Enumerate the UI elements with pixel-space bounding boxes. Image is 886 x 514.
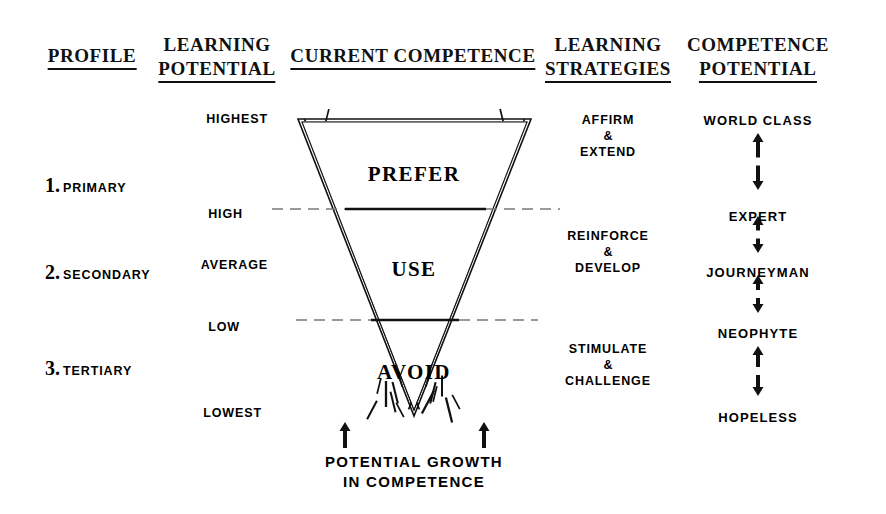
rank-arrow-up-3 xyxy=(753,346,764,367)
header-text: POTENTIAL xyxy=(699,57,816,83)
scale-level-label: AVERAGE xyxy=(201,258,268,272)
header-text: POTENTIAL xyxy=(158,57,275,83)
strategy-line-1: AFFIRM xyxy=(580,112,636,128)
rank-arrow-down-0 xyxy=(753,166,764,191)
header-text: COMPETENCE xyxy=(687,33,829,57)
competence-rank-expert: EXPERT xyxy=(729,209,788,224)
competence-zone-use: USE xyxy=(391,257,436,282)
potential-growth-caption: POTENTIAL GROWTHIN COMPETENCE xyxy=(325,452,503,492)
competence-rank-neophyte: NEOPHYTE xyxy=(718,326,798,341)
profile-label: SECONDARY xyxy=(63,268,151,282)
column-header-current-competence: CURRENT COMPETENCE xyxy=(290,44,535,70)
rank-arrow-down-1 xyxy=(753,239,764,254)
header-line: LEARNING xyxy=(158,33,275,57)
profile-number: 3. xyxy=(45,358,60,378)
profile-row: 1.PRIMARY xyxy=(45,175,126,195)
rank-arrow-up-0 xyxy=(753,133,764,158)
column-header-learning-potential: LEARNINGPOTENTIAL xyxy=(158,33,275,83)
column-header-profile: PROFILE xyxy=(48,44,137,70)
strategy-line-2: CHALLENGE xyxy=(565,373,651,389)
profile-row: 2.SECONDARY xyxy=(45,262,151,282)
profile-number: 1. xyxy=(45,175,60,195)
strategy-line-1: REINFORCE xyxy=(567,228,649,244)
header-text: STRATEGIES xyxy=(545,57,671,83)
diagram-canvas: PROFILE LEARNINGPOTENTIAL CURRENT COMPET… xyxy=(0,0,886,514)
header-line: LEARNING xyxy=(545,33,671,57)
header-text: CURRENT COMPETENCE xyxy=(290,44,535,70)
caption-line-2: IN COMPETENCE xyxy=(325,472,503,492)
strategy-line-1: STIMULATE xyxy=(565,341,651,357)
competence-rank-hopeless: HOPELESS xyxy=(718,410,798,425)
strategy-line-2: DEVELOP xyxy=(567,260,649,276)
growth-arrow-1 xyxy=(479,422,490,448)
growth-arrow-0 xyxy=(340,422,351,448)
header-text: PROFILE xyxy=(48,44,137,70)
profile-label: PRIMARY xyxy=(63,181,126,195)
strategy-ampersand: & xyxy=(565,357,651,373)
competence-zone-prefer: PREFER xyxy=(368,162,460,187)
column-header-learning-strategies: LEARNINGSTRATEGIES xyxy=(545,33,671,83)
scale-level-label: LOWEST xyxy=(203,406,262,420)
strategy-ampersand: & xyxy=(567,244,649,260)
rank-arrow-down-2 xyxy=(753,298,764,313)
column-header-competence-potential: COMPETENCEPOTENTIAL xyxy=(687,33,829,83)
scale-level-label: HIGH xyxy=(208,207,243,221)
strategy-ampersand: & xyxy=(580,128,636,144)
strategy-stimulate-challenge: STIMULATE&CHALLENGE xyxy=(565,341,651,389)
header-line: POTENTIAL xyxy=(687,57,829,83)
scale-level-label: LOW xyxy=(208,320,240,334)
profile-number: 2. xyxy=(45,262,60,282)
strategy-affirm-extend: AFFIRM&EXTEND xyxy=(580,112,636,160)
header-line: CURRENT COMPETENCE xyxy=(290,44,535,70)
rank-arrow-down-3 xyxy=(753,375,764,396)
header-line: PROFILE xyxy=(48,44,137,70)
header-line: COMPETENCE xyxy=(687,33,829,57)
caption-line-1: POTENTIAL GROWTH xyxy=(325,452,503,472)
strategy-reinforce-develop: REINFORCE&DEVELOP xyxy=(567,228,649,276)
header-text: LEARNING xyxy=(554,33,661,57)
header-line: POTENTIAL xyxy=(158,57,275,83)
scale-level-label: HIGHEST xyxy=(206,112,268,126)
header-line: STRATEGIES xyxy=(545,57,671,83)
profile-row: 3.TERTIARY xyxy=(45,358,132,378)
profile-label: TERTIARY xyxy=(63,364,132,378)
competence-rank-world-class: WORLD CLASS xyxy=(704,113,813,128)
header-text: LEARNING xyxy=(163,33,270,57)
competence-rank-journeyman: JOURNEYMAN xyxy=(706,265,809,280)
competence-zone-avoid: AVOID xyxy=(377,360,451,385)
strategy-line-2: EXTEND xyxy=(580,144,636,160)
